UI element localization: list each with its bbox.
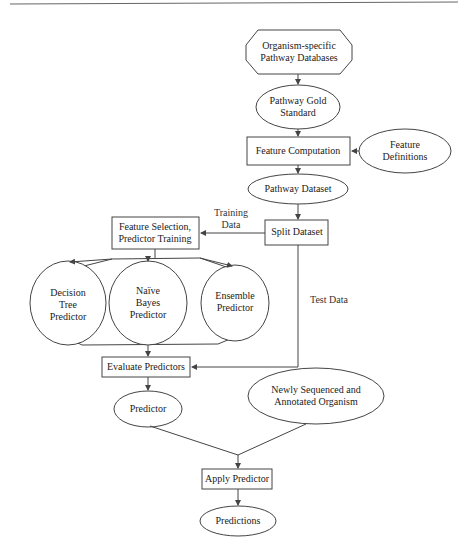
- node-label: Predictor: [50, 311, 87, 323]
- node-label: Feature Computation: [256, 145, 341, 157]
- node-label: Standard: [270, 107, 327, 119]
- flowchart-canvas: [0, 0, 474, 554]
- node-label: Predictor: [130, 309, 167, 321]
- node-label: Organism-specific: [260, 40, 337, 52]
- edge-merge: [150, 424, 306, 455]
- gold-standard-node: Pathway Gold Standard: [270, 95, 327, 119]
- predictions-node: Predictions: [216, 515, 261, 527]
- predictor-node: Predictor: [130, 403, 167, 415]
- apply-node: Apply Predictor: [205, 473, 269, 485]
- node-label: Predictor Training: [118, 233, 191, 245]
- ensemble-node: Ensemble Predictor: [215, 290, 254, 314]
- node-label: Predictions: [216, 515, 261, 527]
- training-data-label: Training Data: [214, 207, 248, 231]
- decision-tree-node: Decision Tree Predictor: [50, 287, 87, 323]
- test-data-label: Test Data: [310, 294, 348, 306]
- node-label: Decision: [50, 287, 87, 299]
- naive-bayes-node: Naïve Bayes Predictor: [130, 285, 167, 321]
- edge-group-ensemble: [200, 258, 232, 266]
- node-label: Predictor: [215, 302, 254, 314]
- edge-label-line: Test Data: [310, 294, 348, 306]
- node-label: Apply Predictor: [205, 473, 269, 485]
- evaluate-node: Evaluate Predictors: [107, 361, 185, 373]
- node-label: Bayes: [130, 297, 167, 309]
- node-label: Pathway Databases: [260, 52, 337, 64]
- node-label: Newly Sequenced and: [271, 384, 360, 396]
- node-label: Naïve: [130, 285, 167, 297]
- node-label: Annotated Organism: [271, 396, 360, 408]
- feature-selection-node: Feature Selection, Predictor Training: [118, 221, 191, 245]
- new-organism-node: Newly Sequenced and Annotated Organism: [271, 384, 360, 408]
- databases-node: Organism-specific Pathway Databases: [260, 40, 337, 64]
- node-label: Evaluate Predictors: [107, 361, 185, 373]
- node-label: Definitions: [383, 151, 428, 163]
- header-rule: [10, 2, 458, 4]
- node-label: Pathway Gold: [270, 95, 327, 107]
- edge-label-line: Data: [214, 219, 248, 231]
- feature-definitions-node: Feature Definitions: [383, 139, 428, 163]
- edge-label-line: Training: [214, 207, 248, 219]
- node-label: Feature: [383, 139, 428, 151]
- split-dataset-node: Split Dataset: [271, 226, 322, 238]
- feature-computation-node: Feature Computation: [256, 145, 341, 157]
- node-label: Ensemble: [215, 290, 254, 302]
- node-label: Split Dataset: [271, 226, 322, 238]
- node-label: Pathway Dataset: [265, 183, 332, 195]
- pathway-dataset-node: Pathway Dataset: [265, 183, 332, 195]
- node-label: Feature Selection,: [118, 221, 191, 233]
- node-label: Tree: [50, 299, 87, 311]
- node-label: Predictor: [130, 403, 167, 415]
